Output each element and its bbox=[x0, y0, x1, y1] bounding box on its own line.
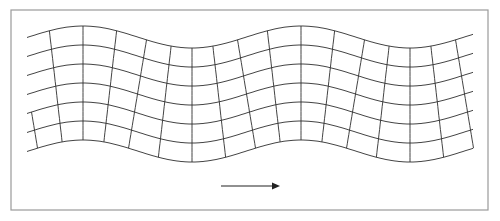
grid-column-line bbox=[32, 112, 38, 148]
wave-grid-figure bbox=[0, 0, 500, 221]
figure-caption bbox=[14, 214, 494, 221]
grid-row-line bbox=[27, 26, 473, 48]
arrow-head bbox=[272, 183, 280, 190]
horizontal-grid-lines bbox=[27, 26, 473, 162]
propagation-arrow-icon bbox=[221, 183, 280, 190]
